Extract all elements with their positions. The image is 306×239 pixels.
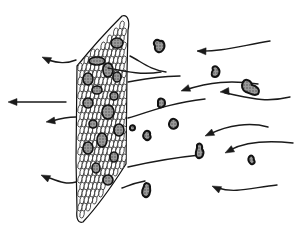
filter-diagram xyxy=(0,0,306,239)
incoming-flow-arrow xyxy=(197,41,270,55)
incoming-flow-arrow xyxy=(225,142,293,153)
trapped-particle xyxy=(89,57,105,65)
streamline xyxy=(128,99,205,118)
particle xyxy=(142,183,150,197)
trapped-particle xyxy=(89,120,97,128)
particle xyxy=(248,156,254,165)
particle xyxy=(169,119,178,129)
free-particles xyxy=(130,40,259,197)
trapped-particle xyxy=(111,38,123,48)
particle xyxy=(212,66,220,77)
arrowhead-icon xyxy=(181,85,191,92)
particle xyxy=(242,80,259,95)
flow-line xyxy=(48,60,76,63)
trapped-particle xyxy=(103,63,113,77)
outgoing-flow-arrow xyxy=(46,117,76,124)
trapped-particle xyxy=(83,142,93,154)
incoming-flow-arrow xyxy=(205,125,268,136)
flow-line xyxy=(230,142,293,150)
particle xyxy=(154,40,164,52)
flow-line xyxy=(122,181,145,188)
arrowhead-icon xyxy=(46,117,55,124)
mesh-weave xyxy=(77,20,127,218)
outgoing-flow-arrow xyxy=(41,175,76,183)
arrowhead-icon xyxy=(8,99,17,106)
trapped-particle xyxy=(83,98,93,108)
particle xyxy=(143,131,151,140)
flow-line xyxy=(218,185,277,190)
arrowhead-icon xyxy=(41,175,51,182)
flow-line xyxy=(52,117,76,121)
trapped-particle xyxy=(110,92,118,100)
streamline xyxy=(130,56,166,72)
arrowhead-icon xyxy=(225,146,235,153)
trapped-particle xyxy=(83,73,93,85)
particle xyxy=(130,125,135,130)
flow-line xyxy=(210,125,268,134)
incoming-flow-arrow xyxy=(122,181,145,188)
incoming-flow-arrow xyxy=(212,185,277,193)
trapped-particle xyxy=(114,124,124,136)
streamline xyxy=(128,155,200,167)
arrowhead-icon xyxy=(197,48,206,55)
flow-line xyxy=(47,177,76,183)
trapped-particle xyxy=(102,105,114,119)
arrowhead-icon xyxy=(220,88,229,95)
streamline xyxy=(128,76,180,82)
trapped-particle xyxy=(113,72,121,82)
trapped-particle xyxy=(103,175,113,185)
arrowhead-icon xyxy=(205,129,215,136)
trapped-particle xyxy=(110,152,118,162)
arrowhead-icon xyxy=(212,186,222,193)
outgoing-flow-arrow xyxy=(8,99,66,106)
particle xyxy=(196,144,204,159)
arrowhead-icon xyxy=(42,57,52,64)
trapped-particle xyxy=(92,86,102,94)
trapped-particle xyxy=(97,133,107,147)
particle xyxy=(158,99,165,108)
airflow-arrows xyxy=(8,41,293,193)
filter-mesh xyxy=(76,16,129,223)
outgoing-flow-arrow xyxy=(42,57,76,64)
trapped-particle xyxy=(92,163,100,173)
flow-line xyxy=(198,41,270,51)
